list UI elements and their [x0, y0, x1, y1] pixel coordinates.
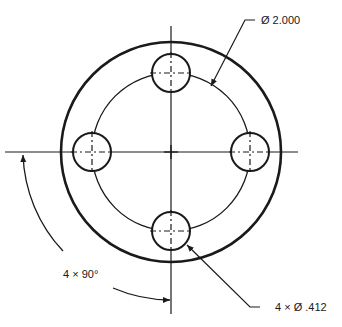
angular-spacing-label: 4 × 90°	[63, 268, 98, 280]
hole-callout-label: 4 × Ø .412	[275, 301, 327, 313]
hole-bottom	[152, 212, 190, 250]
hole-left	[73, 133, 111, 171]
flange-drawing: Ø 2.000 4 × Ø .412 4 × 90°	[0, 0, 342, 327]
bolt-circle-diameter-label: Ø 2.000	[261, 14, 300, 26]
hole-top	[152, 54, 190, 92]
hole-right	[231, 133, 269, 171]
hole-callout-leader	[187, 245, 260, 307]
angle-arc-upper	[23, 155, 63, 251]
center-mark	[164, 145, 178, 159]
angle-arc-lower	[113, 288, 170, 300]
